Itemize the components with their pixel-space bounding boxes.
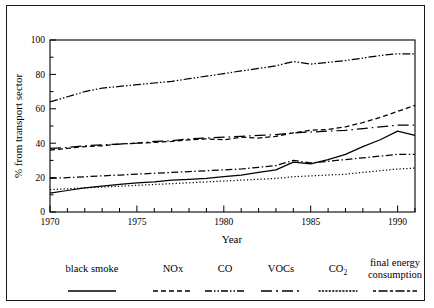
y-tick-label: 20: [36, 173, 46, 183]
figure: 020406080100 19701975198019851990 % from…: [0, 0, 434, 308]
legend-label: black smoke: [66, 263, 119, 274]
y-tick-label: 0: [40, 207, 45, 217]
y-axis-title: % from transport sector: [12, 74, 24, 178]
legend-label: NOx: [163, 263, 184, 274]
y-tick-label: 100: [31, 35, 46, 45]
legend-label: VOCs: [268, 263, 294, 274]
x-tick-label: 1980: [214, 217, 233, 227]
y-tick-label: 60: [36, 104, 46, 114]
legend-label: CO2: [329, 263, 348, 277]
chart-legend: black smokeNOxCOVOCsCO2final energyconsu…: [66, 257, 423, 291]
y-tick-label: 80: [36, 70, 46, 80]
line-chart: 020406080100 19701975198019851990 % from…: [0, 0, 434, 308]
y-tick-label: 40: [36, 139, 46, 149]
x-tick-label: 1985: [301, 217, 320, 227]
y-axis-ticks: [50, 40, 56, 212]
x-tick-label: 1970: [41, 217, 60, 227]
x-axis-title: Year: [222, 233, 243, 245]
series-line-co: [50, 54, 415, 102]
series-line-co2: [50, 154, 415, 178]
data-series-group: [50, 54, 415, 193]
legend-label-line2: consumption: [368, 269, 423, 280]
series-line-black-smoke: [50, 131, 415, 193]
x-tick-label: 1990: [388, 217, 407, 227]
series-line-vocs: [50, 168, 415, 190]
x-axis-tick-labels: 19701975198019851990: [41, 217, 408, 227]
series-line-nox: [50, 105, 415, 150]
x-axis-ticks: [50, 206, 415, 213]
legend-label: CO: [218, 263, 233, 274]
y-axis-tick-labels: 020406080100: [31, 35, 46, 217]
series-line-final-energy-consumption: [50, 125, 415, 148]
legend-label: final energy: [370, 257, 421, 268]
x-tick-label: 1975: [127, 217, 146, 227]
